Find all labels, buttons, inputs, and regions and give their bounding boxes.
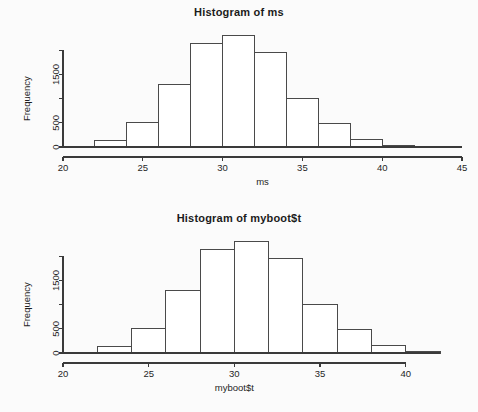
histogram-bar [371, 345, 405, 353]
histogram-ms-plot: 05001500Frequency202530354045ms [0, 0, 478, 206]
histogram-bar [191, 43, 223, 147]
histogram-bar [166, 290, 200, 353]
y-axis-tick-label: 0 [50, 144, 61, 149]
x-axis-tick-label: 35 [315, 368, 326, 379]
histogram-bar [223, 36, 255, 147]
x-axis-tick-label: 20 [58, 162, 69, 173]
histogram-bar [350, 139, 382, 147]
histogram-bar [95, 141, 127, 147]
y-axis-tick-label: 500 [50, 115, 61, 131]
x-axis-tick-label: 35 [297, 162, 308, 173]
y-axis-title: Frequency [21, 282, 32, 327]
x-axis-tick-label: 40 [377, 162, 388, 173]
x-axis-tick-label: 40 [400, 368, 411, 379]
x-axis-tick-label: 30 [217, 162, 228, 173]
histogram-bar [318, 123, 350, 147]
histogram-ms-panel: Histogram of ms 05001500Frequency2025303… [0, 0, 478, 206]
y-axis-tick-label: 1500 [50, 270, 61, 291]
y-axis-tick-label: 500 [50, 321, 61, 337]
y-axis-tick-label: 0 [50, 350, 61, 355]
x-axis-tick-label: 25 [143, 368, 154, 379]
x-axis-tick-label: 20 [58, 368, 69, 379]
x-axis-tick-label: 30 [229, 368, 240, 379]
x-axis-title: ms [256, 176, 269, 187]
histogram-bar [255, 53, 287, 147]
y-axis-tick-label: 1500 [50, 64, 61, 85]
histogram-bar [97, 347, 131, 353]
histogram-bar [234, 242, 268, 353]
histogram-bar [286, 99, 318, 147]
histogram-bar [132, 329, 166, 353]
x-axis-tick-label: 45 [457, 162, 468, 173]
x-axis-title: myboot$t [215, 382, 254, 393]
histogram-bar [303, 305, 337, 353]
histogram-bar [200, 249, 234, 353]
histogram-bar [159, 84, 191, 147]
histogram-bar [337, 329, 371, 353]
histogram-myboot-t-plot: 05001500Frequency2025303540myboot$t [0, 206, 478, 412]
y-axis-title: Frequency [21, 76, 32, 121]
histogram-bar [127, 123, 159, 147]
histogram-bars [95, 36, 414, 147]
histogram-bar [269, 259, 303, 353]
histogram-bars [97, 242, 440, 353]
x-axis-tick-label: 25 [138, 162, 149, 173]
histogram-myboot-t-panel: Histogram of myboot$t 05001500Frequency2… [0, 206, 478, 412]
